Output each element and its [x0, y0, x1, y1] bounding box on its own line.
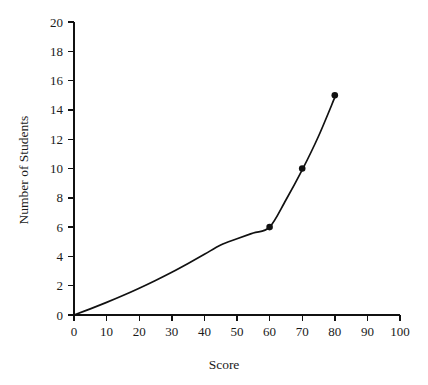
- y-tick-label: 16: [50, 73, 64, 88]
- y-tick-label: 8: [57, 190, 64, 205]
- x-tick-label: 70: [296, 324, 309, 339]
- y-tick-label: 0: [57, 308, 64, 323]
- chart-container: 02468101214161820 0102030405060708090100…: [0, 0, 428, 385]
- x-tick-label: 100: [390, 324, 410, 339]
- data-point-marker: [299, 165, 306, 172]
- y-axis-title: Number of Students: [16, 116, 31, 225]
- x-tick-label: 10: [100, 324, 113, 339]
- y-tick-label: 12: [50, 132, 63, 147]
- y-tick-label: 14: [50, 102, 64, 117]
- x-tick-label: 30: [165, 324, 178, 339]
- y-tick-label: 6: [57, 220, 64, 235]
- y-tick-label: 18: [50, 44, 63, 59]
- x-tick-label: 0: [71, 324, 78, 339]
- y-tick-label: 10: [50, 161, 63, 176]
- y-tick-label: 4: [57, 249, 64, 264]
- x-tick-label: 80: [328, 324, 341, 339]
- x-axis-title: Score: [209, 357, 240, 372]
- data-point-marker: [266, 224, 273, 231]
- x-tick-label: 90: [361, 324, 374, 339]
- x-tick-label: 40: [198, 324, 211, 339]
- data-point-marker: [332, 92, 339, 99]
- y-tick-label: 2: [57, 278, 64, 293]
- x-tick-label: 20: [133, 324, 146, 339]
- x-tick-label: 50: [231, 324, 244, 339]
- y-tick-label: 20: [50, 15, 63, 30]
- line-chart: 02468101214161820 0102030405060708090100…: [0, 0, 428, 385]
- x-tick-label: 60: [263, 324, 276, 339]
